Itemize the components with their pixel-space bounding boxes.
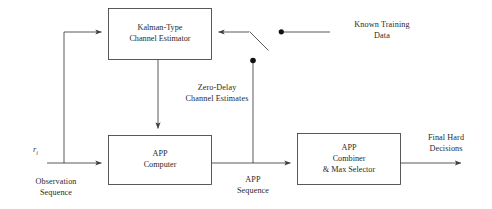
zero-delay-line1: Zero-Delay bbox=[163, 83, 271, 94]
observation-sequence-line2: Sequence bbox=[14, 188, 98, 199]
app-sequence-line2: Sequence bbox=[213, 186, 293, 197]
observation-sequence-label: Observation Sequence bbox=[14, 177, 98, 198]
observation-feedback-line bbox=[64, 32, 102, 163]
app-sequence-label: APP Sequence bbox=[213, 175, 293, 196]
input-signal-label: ri bbox=[33, 144, 38, 156]
app-computer-block[interactable] bbox=[108, 135, 212, 185]
known-training-data-label: Known Training Data bbox=[332, 20, 432, 41]
kalman-estimator-block[interactable] bbox=[108, 8, 212, 60]
app-combiner-block[interactable] bbox=[297, 133, 401, 185]
observation-sequence-line1: Observation bbox=[14, 177, 98, 188]
final-hard-decisions-line2: Decisions bbox=[405, 144, 487, 155]
app-sequence-line1: APP bbox=[213, 175, 293, 186]
input-signal-subscript: i bbox=[36, 150, 38, 156]
zero-delay-line2: Channel Estimates bbox=[163, 94, 271, 105]
final-hard-decisions-line1: Final Hard bbox=[405, 133, 487, 144]
training-data-switch[interactable] bbox=[244, 24, 288, 68]
known-training-data-line2: Data bbox=[332, 31, 432, 42]
block-diagram: Kalman-Type Channel Estimator APP Comput… bbox=[0, 0, 492, 209]
final-hard-decisions-label: Final Hard Decisions bbox=[405, 133, 487, 154]
zero-delay-channel-estimates-label: Zero-Delay Channel Estimates bbox=[163, 83, 271, 104]
known-training-data-line1: Known Training bbox=[332, 20, 432, 31]
